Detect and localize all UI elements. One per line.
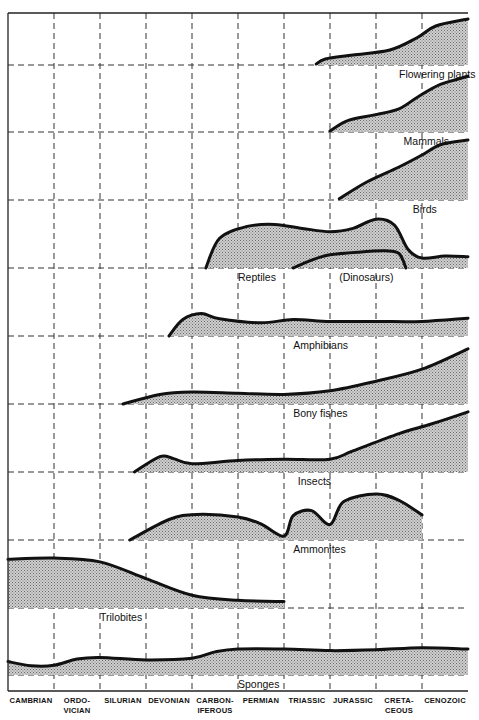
birds-area: [339, 140, 468, 200]
period-label: CRETA-: [384, 696, 414, 705]
period-label: PERMIAN: [243, 696, 279, 705]
period-label: CARBON-: [196, 696, 234, 705]
mammals-area: [330, 76, 468, 132]
period-label: CENOZOIC: [424, 696, 466, 705]
period-label: CEOUS: [385, 706, 413, 715]
evolution-range-chart: Flowering plantsMammalsBirdsReptiles(Din…: [0, 0, 479, 720]
ammonites-label: Ammonites: [293, 543, 346, 555]
mammals-label: Mammals: [404, 135, 450, 147]
period-label: DEVONIAN: [148, 696, 190, 705]
period-label: TRIASSIC: [288, 696, 325, 705]
period-label: VICIAN: [64, 706, 91, 715]
amphibians-label: Amphibians: [293, 339, 348, 351]
period-label: ORDO-: [64, 696, 91, 705]
bony-fishes-area: [123, 349, 468, 404]
period-label: SILURIAN: [104, 696, 141, 705]
flowering-plants-label: Flowering plants: [399, 68, 475, 80]
period-label: CAMBRIAN: [10, 696, 53, 705]
period-label: IFEROUS: [197, 706, 232, 715]
sponges-area: [8, 648, 468, 675]
x-axis-period-labels: CAMBRIANORDO-VICIANSILURIANDEVONIANCARBO…: [10, 696, 467, 715]
reptiles-label: Reptiles: [238, 271, 276, 283]
period-label: JURASSIC: [333, 696, 373, 705]
bony-fishes-label: Bony fishes: [293, 407, 347, 419]
sponges-label: Sponges: [238, 678, 279, 690]
birds-label: Birds: [413, 203, 437, 215]
trilobites-label: Trilobites: [100, 611, 142, 623]
insects-label: Insects: [298, 475, 331, 487]
dinosaurs-label: (Dinosaurs): [339, 271, 393, 283]
